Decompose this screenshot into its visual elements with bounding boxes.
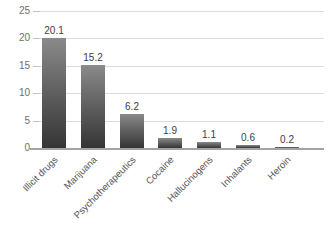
y-axis-tick: [33, 121, 40, 122]
x-axis-category-label: Marijuana: [20, 154, 98, 232]
y-axis-tick-label: 0: [6, 142, 30, 154]
y-axis-tick-label: 20: [6, 32, 30, 44]
x-axis-line: [30, 148, 324, 150]
bar-value-label: 1.1: [189, 129, 229, 140]
y-gridline: [40, 11, 324, 12]
x-axis-category-label: Heroin: [214, 154, 292, 232]
y-axis-tick-label: 15: [6, 60, 30, 72]
bar-value-label: 6.2: [112, 101, 152, 112]
y-axis-tick: [33, 66, 40, 67]
bar-chart: 051015202520.1Illicit drugs15.2Marijuana…: [0, 0, 332, 232]
y-gridline: [40, 38, 324, 39]
x-axis-category-label: Psychotherapeutics: [59, 154, 137, 232]
x-axis-category-label: Cocaine: [97, 154, 175, 232]
x-axis-category-label: Hallucinogens: [136, 154, 214, 232]
bar: [120, 114, 144, 148]
bar: [42, 38, 66, 148]
bar-value-label: 15.2: [73, 52, 113, 63]
y-axis-tick: [33, 38, 40, 39]
y-axis-tick-label: 5: [6, 115, 30, 127]
x-axis-category-label: Inhalants: [175, 154, 253, 232]
y-axis-tick: [33, 11, 40, 12]
bar-value-label: 1.9: [150, 125, 190, 136]
y-axis-tick: [33, 93, 40, 94]
bar: [158, 138, 182, 148]
y-axis-tick-label: 10: [6, 87, 30, 99]
bar: [81, 65, 105, 148]
bar-value-label: 20.1: [34, 25, 74, 36]
bar-value-label: 0.6: [228, 132, 268, 143]
y-axis-tick-label: 25: [6, 5, 30, 17]
bar-value-label: 0.2: [267, 134, 307, 145]
